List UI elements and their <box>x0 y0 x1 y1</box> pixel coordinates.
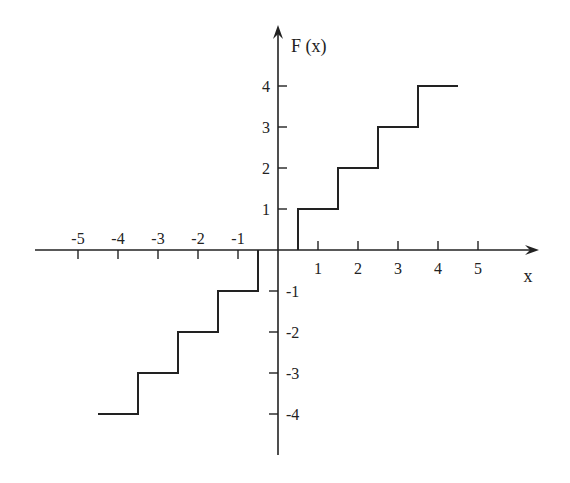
x-tick-label: -1 <box>231 230 244 247</box>
y-tick-label: -1 <box>286 283 299 300</box>
plot-canvas: -5-4-3-2-1123454321-1-2-3-4 x F (x) <box>0 0 570 483</box>
x-tick-label: -5 <box>71 230 84 247</box>
x-tick-label: -2 <box>191 230 204 247</box>
y-tick-label: 3 <box>262 119 270 136</box>
x-tick-label: 2 <box>354 260 362 277</box>
x-tick-label: -4 <box>111 230 124 247</box>
x-tick-label: 3 <box>394 260 402 277</box>
x-tick-label: 5 <box>474 260 482 277</box>
y-tick-label: -4 <box>286 406 299 423</box>
y-tick-label: 4 <box>262 78 270 95</box>
y-axis-label: F (x) <box>291 36 327 57</box>
y-tick-label: 2 <box>262 160 270 177</box>
x-tick-label: 1 <box>314 260 322 277</box>
y-tick-label: -3 <box>286 365 299 382</box>
y-tick-label: -2 <box>286 324 299 341</box>
y-tick-label: 1 <box>262 201 270 218</box>
x-tick-label: 4 <box>434 260 442 277</box>
x-axis-label: x <box>524 266 533 286</box>
step-function-figure: -5-4-3-2-1123454321-1-2-3-4 x F (x) <box>0 0 570 483</box>
x-tick-label: -3 <box>151 230 164 247</box>
